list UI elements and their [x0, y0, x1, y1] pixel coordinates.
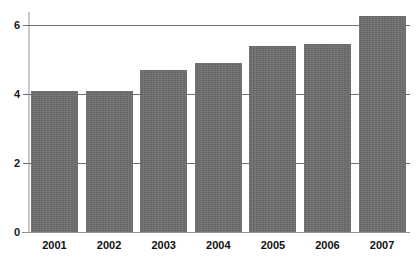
bar	[86, 91, 133, 232]
bar	[359, 16, 406, 232]
x-axis-tick-label: 2002	[86, 239, 133, 251]
x-axis-line	[22, 232, 410, 233]
y-axis-tick-label: 0	[0, 232, 20, 233]
bar	[304, 44, 351, 232]
x-axis-tick-label: 2003	[140, 239, 187, 251]
bar-series	[0, 0, 417, 232]
x-axis-tick-label: 2007	[359, 239, 406, 251]
x-axis: 2001200220032004200520062007	[0, 236, 417, 259]
bar	[31, 91, 78, 232]
bar	[140, 70, 187, 232]
x-axis-tick-label: 2005	[249, 239, 296, 251]
x-axis-tick-label: 2006	[304, 239, 351, 251]
bar	[249, 46, 296, 232]
bar-chart: 0246 2001200220032004200520062007	[0, 0, 417, 259]
bar	[195, 63, 242, 232]
x-axis-tick-label: 2004	[195, 239, 242, 251]
x-axis-tick-label: 2001	[31, 239, 78, 251]
